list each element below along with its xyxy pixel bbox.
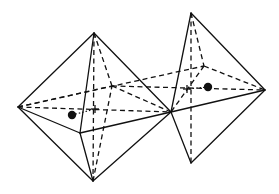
edges-layer (18, 13, 265, 181)
left-octahedron-hidden-edge (94, 33, 112, 86)
metal-atom-dot-icon (68, 111, 76, 119)
right-octahedron-visible-edge (191, 13, 265, 90)
left-octahedron-visible-edge (94, 33, 171, 112)
right-octahedron-visible-edge (171, 90, 265, 112)
right-octahedron-hidden-edge (191, 13, 204, 66)
center-plus-icon (183, 85, 191, 93)
right-octahedron-visible-edge (171, 112, 191, 163)
octahedra-diagram (0, 0, 279, 194)
left-octahedron-hidden-edge (18, 86, 112, 107)
left-octahedron-hidden-edge (93, 33, 94, 181)
metal-atom-dot-icon (204, 83, 212, 91)
left-octahedron-hidden-edge (112, 86, 171, 112)
left-octahedron-visible-edge (18, 33, 94, 107)
right-octahedron-hidden-edge (204, 66, 265, 90)
right-octahedron-visible-edge (191, 90, 265, 163)
center-plus-icon (91, 105, 99, 113)
left-octahedron-visible-edge (80, 33, 94, 133)
left-octahedron-visible-edge (18, 107, 80, 133)
